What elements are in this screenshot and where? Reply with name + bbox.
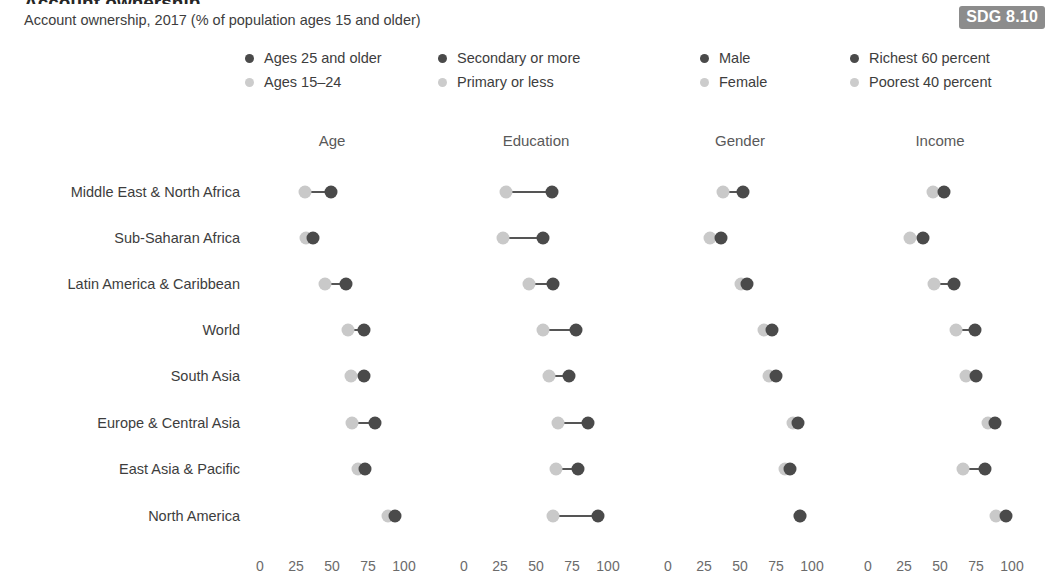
data-point-dark [765,324,778,337]
data-point-dark [988,417,1001,430]
data-point-light [778,463,791,476]
row-label: Sub-Saharan Africa [114,230,240,246]
dumbbell-connector [305,191,331,193]
dumbbell-connector [558,422,588,424]
data-point-light [787,417,800,430]
data-point-dark [571,463,584,476]
data-point-dark [970,370,983,383]
axis-tick-label: 75 [768,558,784,574]
data-point-light [551,417,564,430]
legend-item-label: Secondary or more [457,50,580,66]
legend-swatch-dark-icon [245,54,254,63]
legend-swatch-dark-icon [700,54,709,63]
data-point-light [762,370,775,383]
dumbbell-connector [553,515,598,517]
data-point-light [298,186,311,199]
data-point-light [318,278,331,291]
axis-tick-label: 0 [460,558,468,574]
data-point-light [499,186,512,199]
data-point-dark [547,278,560,291]
dumbbell-connector [956,329,975,331]
data-point-dark [978,463,991,476]
legend-group: Richest 60 percentPoorest 40 percent [850,46,992,94]
dumbbell-connector [934,283,954,285]
data-point-dark [948,278,961,291]
data-point-light [990,510,1003,523]
legend-item-label: Primary or less [457,74,554,90]
row-label: Europe & Central Asia [97,415,240,431]
data-point-light [794,510,807,523]
data-point-light [300,232,313,245]
legend-item[interactable]: Primary or less [438,70,580,94]
legend-swatch-dark-icon [850,54,859,63]
data-point-dark [359,463,372,476]
row-label: Latin America & Caribbean [68,276,241,292]
data-point-dark [968,324,981,337]
data-point-dark [563,370,576,383]
dumbbell-connector [325,283,347,285]
data-point-light [957,463,970,476]
legend-item[interactable]: Male [700,46,767,70]
axis-tick-label: 75 [564,558,580,574]
panel-header-age: Age [319,132,346,149]
data-point-light [547,510,560,523]
legend-swatch-light-icon [700,78,709,87]
dumbbell-connector [348,329,364,331]
axis-tick-label: 25 [696,558,712,574]
dumbbell-connector [549,375,569,377]
axis-tick-label: 100 [392,558,415,574]
data-point-light [928,278,941,291]
data-point-light [550,463,563,476]
legend-item[interactable]: Secondary or more [438,46,580,70]
axis-tick-label: 100 [800,558,823,574]
axis-tick-label: 100 [1000,558,1023,574]
data-point-dark [784,463,797,476]
dumbbell-connector [506,191,552,193]
legend-item[interactable]: Female [700,70,767,94]
legend-swatch-dark-icon [438,54,447,63]
row-label: South Asia [171,368,240,384]
legend-item[interactable]: Ages 15–24 [245,70,382,94]
data-point-dark [581,417,594,430]
data-point-dark [591,510,604,523]
axis-tick-label: 25 [288,558,304,574]
legend-item-label: Poorest 40 percent [869,74,992,90]
dumbbell-connector [543,329,576,331]
data-point-light [351,463,364,476]
data-point-light [735,278,748,291]
data-point-light [903,232,916,245]
data-point-dark [794,510,807,523]
data-point-light [382,510,395,523]
data-point-dark [340,278,353,291]
legend-item[interactable]: Richest 60 percent [850,46,992,70]
axis-tick-label: 25 [492,558,508,574]
legend-group: Ages 25 and olderAges 15–24 [245,46,382,94]
data-point-dark [369,417,382,430]
legend-item-label: Male [719,50,750,66]
chart-subtitle: Account ownership, 2017 (% of population… [24,12,421,28]
legend-item-label: Richest 60 percent [869,50,990,66]
axis-tick-label: 50 [932,558,948,574]
data-point-light [344,370,357,383]
data-point-dark [938,186,951,199]
axis-tick-label: 50 [324,558,340,574]
data-point-light [542,370,555,383]
panel-header-income: Income [915,132,964,149]
axis-tick-label: 25 [896,558,912,574]
data-point-dark [791,417,804,430]
axis-tick-label: 50 [528,558,544,574]
axis-tick-label: 0 [664,558,672,574]
axis-tick-label: 75 [360,558,376,574]
dumbbell-connector [352,422,375,424]
legend-group: MaleFemale [700,46,767,94]
data-point-light [537,324,550,337]
data-point-light [959,370,972,383]
row-label: Middle East & North Africa [71,184,240,200]
data-point-dark [1000,510,1013,523]
chart-legend: Ages 25 and olderAges 15–24Secondary or … [0,46,1055,98]
legend-item[interactable]: Poorest 40 percent [850,70,992,94]
legend-item[interactable]: Ages 25 and older [245,46,382,70]
page-title: Account ownership [24,0,724,4]
row-label: World [202,322,240,338]
data-point-light [926,186,939,199]
